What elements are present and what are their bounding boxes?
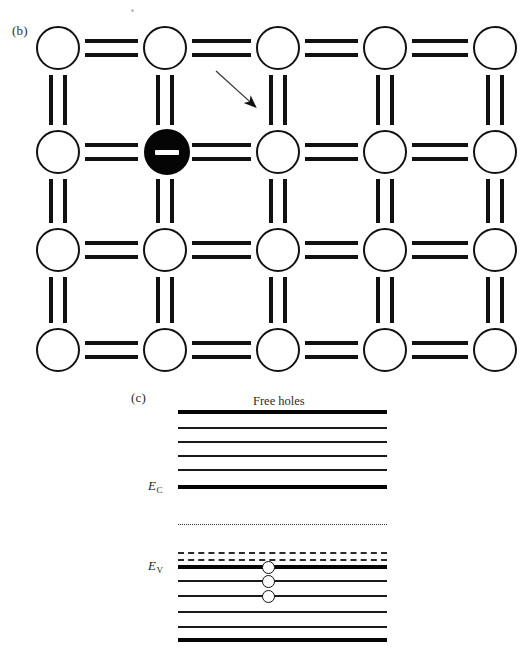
annotation-arrow [0,0,530,380]
hole-layer [0,380,530,648]
ev-subscript: V [156,565,163,575]
ev-symbol: E [148,558,156,573]
ec-subscript: C [156,485,162,495]
free-hole-marker [262,590,275,603]
band-diagram-panel: (c) Free holes EC EV [0,380,530,648]
lattice-panel: (b) [0,0,530,380]
ec-symbol: E [148,478,156,493]
figure-canvas: (b) (c) Free holes EC EV [0,0,530,648]
free-hole-marker [262,561,275,574]
valence-band-edge-label: EV [148,558,162,574]
conduction-band-edge-label: EC [148,478,162,494]
free-hole-marker [262,575,275,588]
